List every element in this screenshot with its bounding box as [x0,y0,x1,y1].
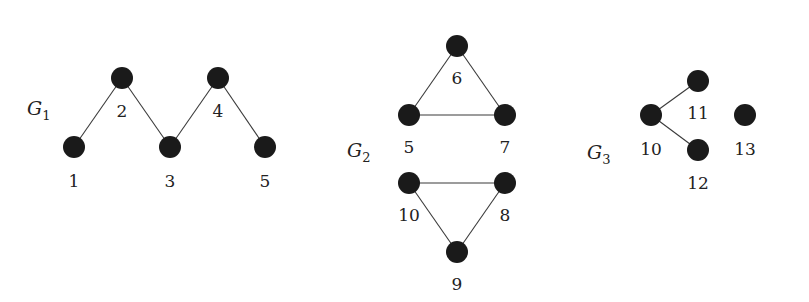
edge-g2-6-5 [409,46,457,115]
node-label: 3 [165,171,176,191]
graph-label-g3: G3 [587,141,610,167]
node-g1-4 [207,67,229,89]
graph-label-subscript: 2 [362,150,370,165]
edge-g2-8-9 [457,183,505,252]
node-g3-10 [640,104,662,126]
node-label: 4 [213,101,224,121]
node-label: 6 [452,68,463,88]
node-g3-13 [734,104,756,126]
node-label: 7 [500,137,511,157]
node-g3-12 [687,139,709,161]
node-g1-2 [111,67,133,89]
node-g2-9 [446,241,468,263]
node-label: 1 [69,171,80,191]
node-label: 10 [398,205,420,225]
node-label: 2 [117,101,128,121]
edge-g1-1-2 [74,78,122,147]
node-g1-1 [63,136,85,158]
node-label: 11 [687,103,709,123]
edge-g1-2-3 [122,78,170,147]
graph-label-g1: G1 [27,97,50,123]
graph-diagram: 12345G16571089G210111213G3 [0,0,809,302]
graph-label-letter: G [587,141,602,163]
node-label: 8 [500,205,511,225]
graph-label-subscript: 3 [602,152,610,167]
node-label: 5 [404,137,415,157]
labels-layer: 12345G16571089G210111213G3 [27,68,756,294]
edge-g2-6-7 [457,46,505,115]
node-g2-6 [446,35,468,57]
node-g1-5 [254,136,276,158]
edge-g1-4-5 [218,78,265,147]
node-label: 10 [640,139,662,159]
node-g1-3 [159,136,181,158]
graph-label-letter: G [347,139,362,161]
node-g2-8 [494,172,516,194]
edge-g1-3-4 [170,78,218,147]
node-label: 5 [260,171,271,191]
node-label: 13 [734,139,756,159]
graph-label-letter: G [27,97,42,119]
node-g2-10 [398,172,420,194]
graph-label-subscript: 1 [42,108,50,123]
node-label: 9 [452,274,463,294]
node-label: 12 [687,173,709,193]
node-g2-7 [494,104,516,126]
graph-label-g2: G2 [347,139,370,165]
node-g2-5 [398,104,420,126]
node-g3-11 [687,70,709,92]
